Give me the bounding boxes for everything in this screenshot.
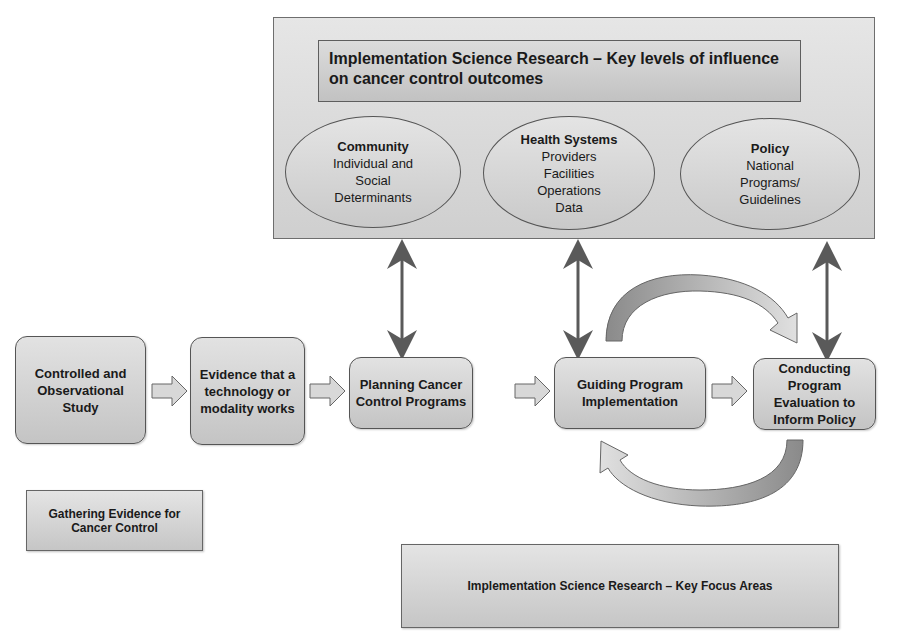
curved-arrow-bottom-icon	[600, 440, 803, 506]
right-block-arrow-icon	[310, 376, 345, 406]
step-conducting-evaluation: Conducting Program Evaluation to Inform …	[753, 358, 876, 430]
step-guiding-implementation: Guiding Program Implementation	[554, 357, 706, 429]
step-controlled-study: Controlled and Observational Study	[15, 336, 146, 444]
curved-arrow-top-icon	[606, 275, 797, 343]
step-planning-programs: Planning Cancer Control Programs	[349, 357, 473, 429]
key-focus-areas-label: Implementation Science Research – Key Fo…	[401, 544, 839, 628]
gathering-evidence-label: Gathering Evidence for Cancer Control	[26, 490, 203, 551]
right-block-arrow-icon	[515, 376, 550, 406]
right-block-arrow-icon	[152, 376, 187, 406]
right-block-arrow-icon	[712, 376, 747, 406]
step-evidence-works: Evidence that a technology or modality w…	[190, 337, 305, 445]
